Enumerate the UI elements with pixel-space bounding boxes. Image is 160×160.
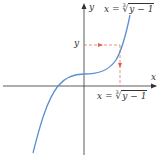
graph-svg	[0, 0, 160, 160]
top-formula: x = 3√y − 1	[104, 3, 154, 14]
y-value-label: y	[74, 38, 79, 48]
inverse-function-diagram: y x y x = 3√y − 1 x = 3√y − 1	[0, 0, 160, 160]
y-axis-label: y	[89, 2, 94, 12]
bottom-formula: x = 3√y − 1	[97, 90, 147, 101]
down-arrow-icon	[118, 63, 122, 68]
cubic-curve	[33, 15, 130, 153]
x-axis-arrow-icon	[151, 84, 157, 89]
right-arrow-icon	[98, 43, 103, 47]
y-axis-arrow-icon	[82, 3, 87, 9]
x-axis-label: x	[151, 72, 156, 82]
